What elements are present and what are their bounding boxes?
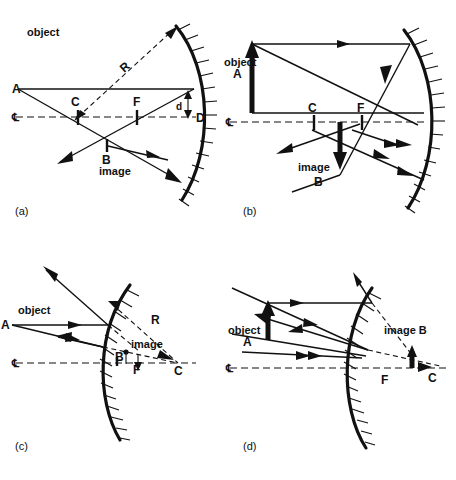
panel-a-offset-d-label: d: [176, 101, 182, 112]
panel-b-panel-label: (b): [243, 205, 256, 217]
panel-c-point-A-label: A: [1, 318, 10, 332]
panel-a-point-F-label: F: [133, 95, 140, 109]
panel-a-point-A-label: A: [12, 82, 21, 96]
panel-d-image-label: image B: [384, 324, 427, 336]
panel-c-centerline-symbol-left: ℄: [11, 357, 20, 369]
panel-a-panel-label: (a): [15, 205, 28, 217]
panel-c-point-B-label: B: [115, 350, 124, 364]
panel-d-point-F-label: F: [381, 373, 388, 387]
panel-b-point-F-label: F: [357, 101, 364, 115]
panel-b-image-label: image: [298, 161, 330, 173]
panel-c-panel-label: (c): [15, 440, 28, 452]
panel-a-point-C-label: C: [71, 95, 80, 109]
panel-c-image-label: image: [131, 338, 163, 350]
panel-a-object-label: object: [27, 26, 60, 38]
panel-c-point-C-label: C: [174, 364, 183, 378]
mirror-ray-diagram-figure: object A C F B image D d R ℄ (a): [0, 0, 456, 480]
panel-a-centerline-symbol-left: ℄: [11, 111, 20, 123]
panel-b-point-C-label: C: [308, 101, 317, 115]
panel-b-centerline-symbol-left: ℄: [225, 116, 234, 128]
panel-b-image-point-label: B: [314, 175, 323, 189]
panel-c-object-label: object: [18, 304, 51, 316]
panel-d-point-C-label: C: [428, 371, 437, 385]
panel-c-point-F-label: F: [133, 363, 140, 377]
panel-d-panel-label: (d): [243, 440, 256, 452]
panel-b-point-A-label: A: [233, 67, 242, 81]
figure-canvas: object A C F B image D d R ℄ (a): [0, 0, 456, 480]
panel-d-point-A-label: A: [243, 335, 252, 349]
panel-c-radius-R-label: R: [151, 313, 160, 327]
panel-a-image-label: image: [99, 165, 131, 177]
panel-a-vertex-D-label: D: [196, 111, 205, 125]
panel-d-centerline-symbol-left: ℄: [225, 362, 234, 374]
